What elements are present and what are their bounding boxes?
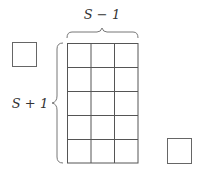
top-brace bbox=[67, 28, 138, 38]
diagram-canvas: S − 1 S + 1 bbox=[0, 0, 199, 170]
rectangle-grid bbox=[68, 44, 139, 164]
extra-square-left bbox=[13, 43, 37, 67]
side-brace bbox=[52, 43, 63, 163]
side-dimension-label: S + 1 bbox=[12, 96, 48, 111]
top-dimension-label: S − 1 bbox=[84, 7, 120, 22]
extra-square-right bbox=[168, 139, 192, 164]
